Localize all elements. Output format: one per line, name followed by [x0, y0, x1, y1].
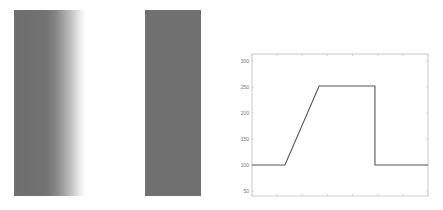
- y-tick-label: 300: [241, 58, 250, 64]
- y-tick-label: 100: [241, 162, 250, 168]
- chart-canvas: 50100150200250300: [228, 48, 443, 208]
- intensity-profile-chart: 50100150200250300: [228, 48, 443, 208]
- sharp-intensity-image: [145, 10, 201, 196]
- y-tick-label: 200: [241, 110, 250, 116]
- y-tick-label: 50: [243, 188, 249, 194]
- plot-frame: [252, 54, 428, 196]
- y-tick-label: 150: [241, 136, 250, 142]
- blurred-intensity-image: [14, 10, 86, 196]
- y-tick-label: 250: [241, 84, 250, 90]
